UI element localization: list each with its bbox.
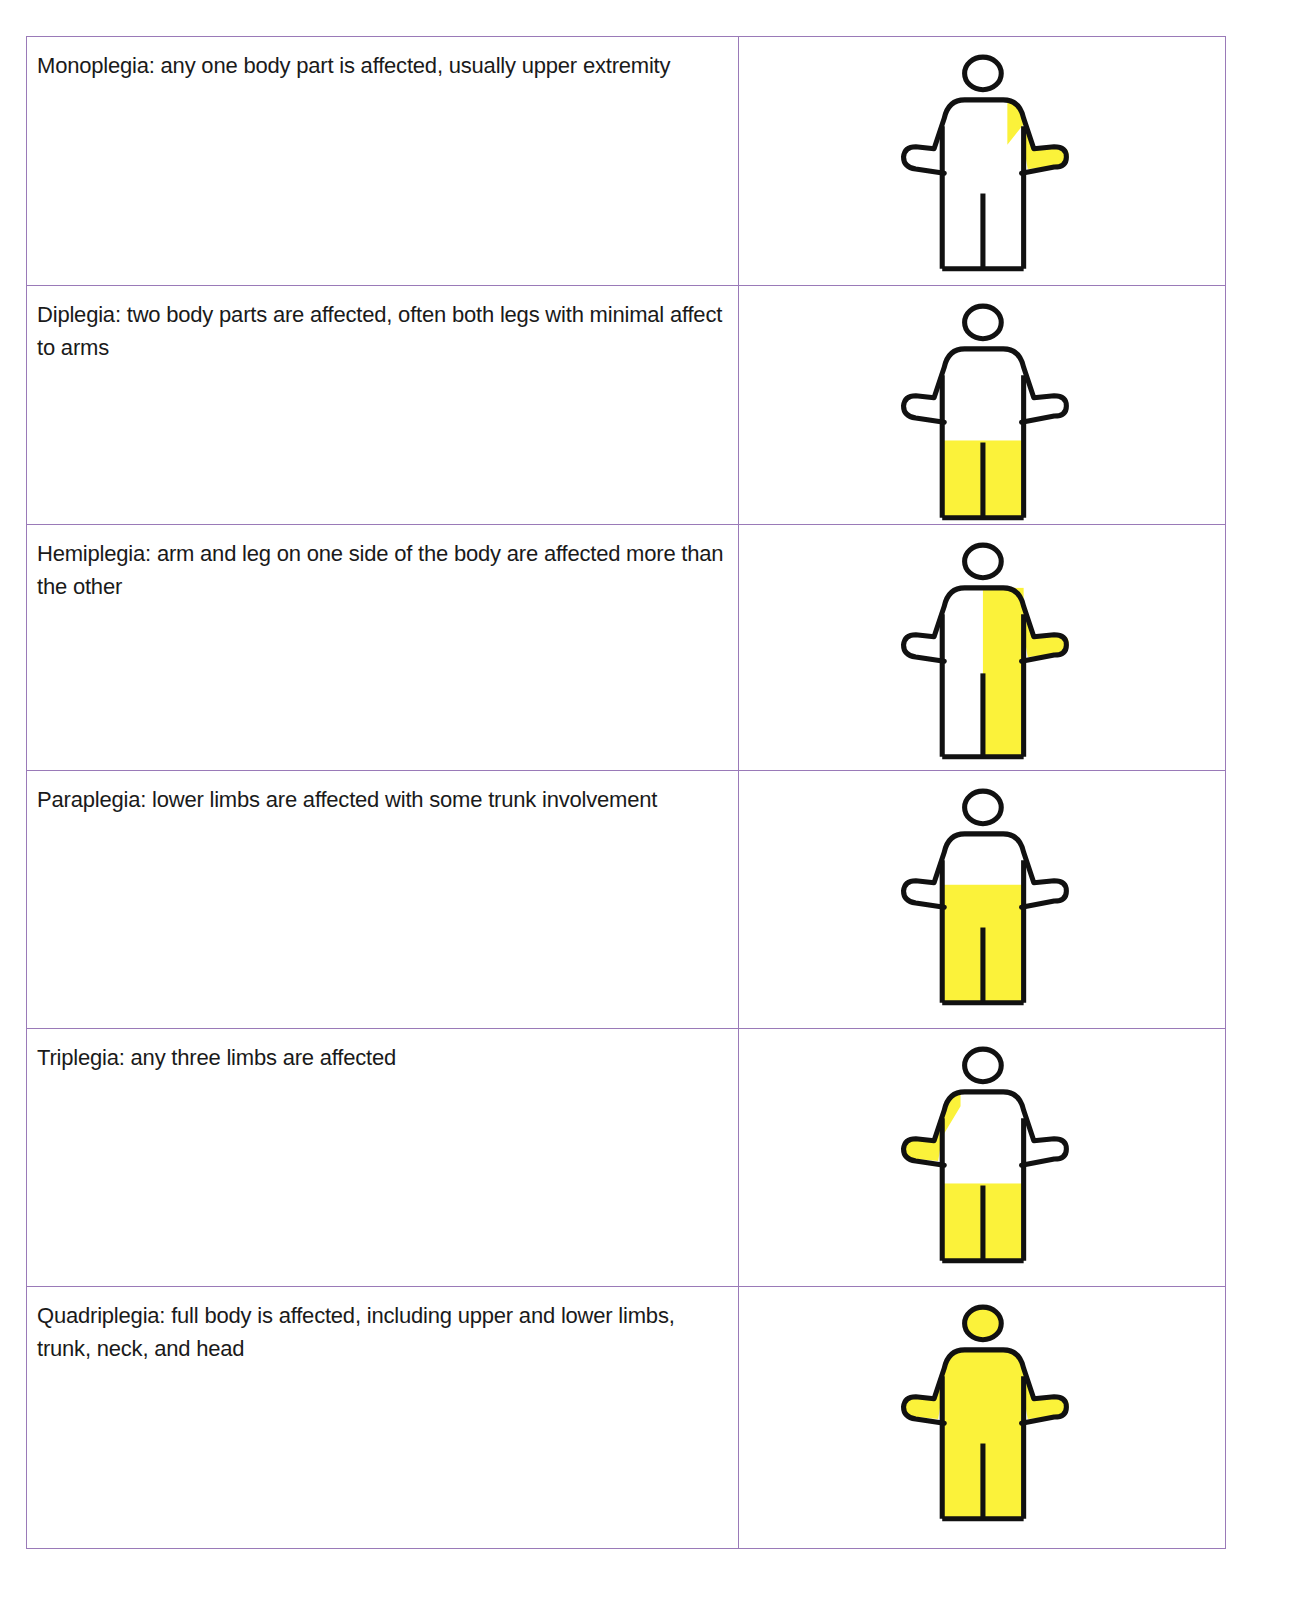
head-icon — [965, 57, 1002, 90]
plegia-description: Monoplegia: any one body part is affecte… — [27, 37, 739, 285]
body-figure-cell — [739, 1287, 1225, 1548]
body-figure-icon — [897, 1041, 1077, 1271]
body-figure-icon — [897, 537, 1077, 767]
body-figure-icon — [897, 298, 1077, 528]
plegia-description: Triplegia: any three limbs are affected — [27, 1029, 739, 1286]
table-row-3: Hemiplegia: arm and leg on one side of t… — [27, 524, 1225, 770]
table-row-4: Paraplegia: lower limbs are affected wit… — [27, 770, 1225, 1028]
head-icon — [965, 306, 1002, 339]
body-figure-icon — [897, 49, 1077, 279]
head-icon — [965, 1307, 1002, 1340]
body-figure-cell — [739, 771, 1225, 1028]
table-row-6: Quadriplegia: full body is affected, inc… — [27, 1286, 1225, 1548]
plegia-description: Paraplegia: lower limbs are affected wit… — [27, 771, 739, 1028]
plegia-description: Quadriplegia: full body is affected, inc… — [27, 1287, 739, 1548]
head-icon — [965, 545, 1002, 578]
body-figure-icon — [897, 783, 1077, 1013]
head-icon — [965, 1049, 1002, 1082]
body-figure-cell — [739, 37, 1225, 285]
body-figure-cell — [739, 1029, 1225, 1286]
table-row-2: Diplegia: two body parts are affected, o… — [27, 285, 1225, 524]
plegia-description: Diplegia: two body parts are affected, o… — [27, 286, 739, 524]
table-row-1: Monoplegia: any one body part is affecte… — [27, 37, 1225, 285]
plegia-description: Hemiplegia: arm and leg on one side of t… — [27, 525, 739, 770]
table-row-5: Triplegia: any three limbs are affected — [27, 1028, 1225, 1286]
body-figure-cell — [739, 286, 1225, 524]
plegia-types-table: Monoplegia: any one body part is affecte… — [26, 36, 1226, 1549]
body-figure-icon — [897, 1299, 1077, 1529]
head-icon — [965, 791, 1002, 824]
body-figure-cell — [739, 525, 1225, 770]
